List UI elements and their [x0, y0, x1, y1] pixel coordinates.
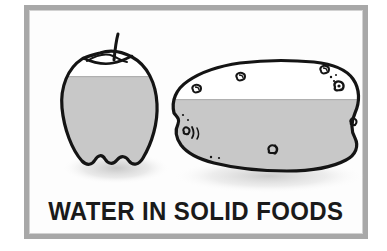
- caption-bar: WATER IN SOLID FOODS: [24, 192, 368, 230]
- caption-text: WATER IN SOLID FOODS: [48, 197, 343, 226]
- apple-illustration: [54, 34, 166, 176]
- potato-water-line: [164, 99, 368, 100]
- water-in-solid-foods-poster: WATER IN SOLID FOODS: [0, 0, 387, 251]
